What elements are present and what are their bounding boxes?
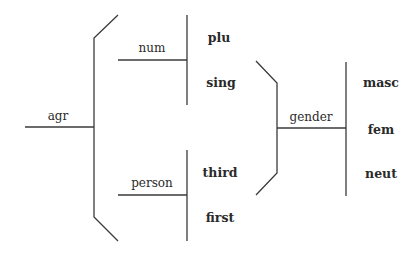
feature-label-num: num bbox=[139, 42, 166, 54]
value-neut: neut bbox=[365, 168, 397, 181]
value-fem: fem bbox=[368, 124, 395, 137]
feature-label-agr: agr bbox=[48, 110, 69, 122]
value-first: first bbox=[206, 212, 235, 225]
value-masc: masc bbox=[363, 77, 399, 90]
gender-bracket bbox=[256, 61, 277, 195]
feature-label-person: person bbox=[131, 177, 173, 189]
feature-label-gender: gender bbox=[289, 111, 332, 123]
feature-diagram: agr num person gender plu sing third fir… bbox=[0, 0, 417, 256]
value-sing: sing bbox=[206, 77, 236, 90]
value-plu: plu bbox=[208, 32, 231, 45]
value-third: third bbox=[203, 167, 238, 180]
agr-bracket bbox=[94, 15, 118, 241]
